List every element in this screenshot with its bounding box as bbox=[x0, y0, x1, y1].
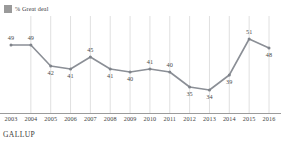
x-axis-tick-2013: 2013 bbox=[203, 115, 216, 122]
data-point-marker bbox=[228, 74, 231, 77]
data-point-marker bbox=[89, 56, 92, 59]
line-chart-svg bbox=[0, 16, 281, 113]
source-attribution: GALLUP bbox=[3, 130, 35, 139]
data-point-label: 40 bbox=[127, 75, 133, 82]
x-axis-tick-2007: 2007 bbox=[84, 115, 97, 122]
data-point-label: 41 bbox=[147, 58, 153, 65]
data-point-label: 39 bbox=[226, 78, 232, 85]
data-point-marker bbox=[188, 86, 191, 89]
data-point-label: 51 bbox=[246, 28, 252, 35]
data-point-label: 41 bbox=[67, 72, 73, 79]
x-axis-tick-2008: 2008 bbox=[104, 115, 117, 122]
data-point-label: 49 bbox=[8, 34, 14, 41]
data-point-marker bbox=[208, 89, 211, 92]
data-point-marker bbox=[248, 38, 251, 41]
data-point-label: 45 bbox=[87, 46, 93, 53]
x-axis-tick-2011: 2011 bbox=[163, 115, 176, 122]
x-axis-tick-2016: 2016 bbox=[263, 115, 276, 122]
data-point-marker bbox=[29, 44, 32, 47]
data-point-label: 41 bbox=[107, 72, 113, 79]
data-point-marker bbox=[10, 44, 13, 47]
x-axis-tick-2015: 2015 bbox=[243, 115, 256, 122]
data-point-label: 49 bbox=[28, 34, 34, 41]
x-axis-tick-2004: 2004 bbox=[24, 115, 37, 122]
chart-plot-area: 4949424145414041403534395148 bbox=[0, 16, 281, 113]
data-point-label: 40 bbox=[167, 61, 173, 68]
x-axis-tick-2014: 2014 bbox=[223, 115, 236, 122]
legend-label: % Great deal bbox=[15, 5, 49, 12]
data-point-label: 35 bbox=[186, 90, 192, 97]
x-axis-tick-2003: 2003 bbox=[5, 115, 18, 122]
x-axis-tick-2009: 2009 bbox=[124, 115, 137, 122]
data-point-label: 48 bbox=[266, 51, 272, 58]
legend-swatch-square-icon bbox=[4, 5, 12, 13]
x-axis-tick-2012: 2012 bbox=[183, 115, 196, 122]
x-axis-tick-labels: 2003200420052006200720082009201020112012… bbox=[0, 115, 281, 127]
data-point-marker bbox=[109, 68, 112, 71]
x-axis-tick-2006: 2006 bbox=[64, 115, 77, 122]
x-axis-tick-2005: 2005 bbox=[44, 115, 57, 122]
x-axis-tick-2010: 2010 bbox=[144, 115, 157, 122]
data-point-label: 42 bbox=[47, 69, 53, 76]
chart-legend: % Great deal bbox=[4, 3, 49, 14]
data-point-marker bbox=[148, 68, 151, 71]
data-point-marker bbox=[129, 71, 132, 74]
data-point-marker bbox=[49, 65, 52, 68]
data-point-marker bbox=[268, 47, 271, 50]
x-axis-line bbox=[0, 113, 281, 114]
data-point-marker bbox=[168, 71, 171, 74]
data-point-label: 34 bbox=[206, 93, 212, 100]
data-point-marker bbox=[69, 68, 72, 71]
